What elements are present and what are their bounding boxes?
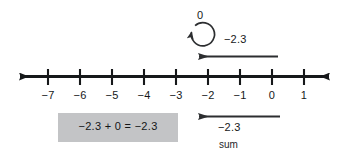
vector-top-label: −2.3 [224, 34, 247, 45]
tick-label-neg6: −6 [74, 90, 87, 101]
tick-label-one: 1 [301, 90, 307, 101]
equation-text: −2.3 + 0 = −2.3 [58, 121, 178, 132]
tick-label-neg3: −3 [170, 90, 183, 101]
tick-label-neg2: −2 [202, 90, 215, 101]
number-line-figure: −7 −6 −5 −4 −3 −2 −1 0 1 0 −2.3 −2.3 sum… [0, 0, 349, 158]
tick-label-zero: 0 [269, 90, 275, 101]
vector-sum-caption: sum [219, 140, 238, 150]
tick-label-neg4: −4 [138, 90, 151, 101]
tick-label-neg5: −5 [106, 90, 119, 101]
zero-loop-arrow-icon [187, 18, 220, 51]
tick-label-neg7: −7 [42, 90, 55, 101]
tick-label-neg1: −1 [234, 90, 247, 101]
vector-sum-label: −2.3 [218, 122, 241, 133]
loop-zero-label: 0 [197, 10, 203, 21]
